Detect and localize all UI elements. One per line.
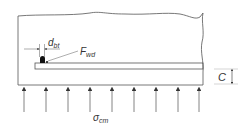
weld-bead <box>40 56 48 63</box>
diagram-canvas: dbt Fwd σcm C <box>0 0 250 125</box>
weld-force-label: Fwd <box>80 46 96 58</box>
clearance-label: C <box>218 71 226 83</box>
weld-width-dimension: dbt <box>24 37 60 57</box>
base-block <box>18 12 203 85</box>
weld-width-label: dbt <box>48 37 60 49</box>
weld-force-leader-line <box>48 51 78 61</box>
block-top-break-line <box>18 12 203 18</box>
plate <box>35 63 203 69</box>
pressure-arrows <box>24 89 199 112</box>
block-right-break-line <box>201 13 203 85</box>
pressure-label: σcm <box>93 112 109 124</box>
clearance-dimension: C <box>214 69 238 84</box>
